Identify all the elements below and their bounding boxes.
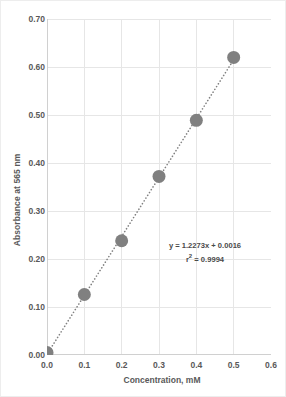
- x-axis-tick-label: 0.6: [251, 360, 286, 370]
- y-axis-tick-label: 0.40: [9, 158, 45, 168]
- y-axis-tick-labels: 0.000.100.200.300.400.500.600.70: [1, 1, 45, 397]
- regression-equation-text: y = 1.2273x + 0.0016: [151, 240, 259, 252]
- r-squared-text: r2 = 0.9994: [151, 252, 259, 265]
- y-axis-tick-label: 0.50: [9, 110, 45, 120]
- x-axis-tick-label: 0.1: [64, 360, 104, 370]
- chart-figure: Absorbance at 565 nm 0.000.100.200.300.4…: [0, 0, 286, 397]
- x-axis-title: Concentration, mM: [45, 375, 279, 385]
- x-axis-tick-label: 0.4: [176, 360, 216, 370]
- trendline: [47, 60, 234, 355]
- regression-annotation: y = 1.2273x + 0.0016 r2 = 0.9994: [151, 240, 259, 265]
- x-axis-tick-labels: 0.00.10.20.30.40.50.6: [1, 360, 286, 374]
- y-axis-tick-label: 0.10: [9, 302, 45, 312]
- y-axis-tick-label: 0.30: [9, 206, 45, 216]
- y-axis-tick-label: 0.20: [9, 254, 45, 264]
- x-axis-tick-label: 0.2: [102, 360, 142, 370]
- y-axis-tick-label: 0.60: [9, 62, 45, 72]
- y-axis-tick-label: 0.00: [9, 350, 45, 360]
- y-axis-tick-label: 0.70: [9, 14, 45, 24]
- x-axis-tick-label: 0.0: [27, 360, 67, 370]
- plot-area: [47, 19, 271, 355]
- gridlines: [47, 19, 271, 355]
- plot-svg: [47, 19, 271, 355]
- r-squared-value: = 0.9994: [192, 254, 224, 263]
- x-axis-tick-label: 0.3: [139, 360, 179, 370]
- x-axis-tick-label: 0.5: [214, 360, 254, 370]
